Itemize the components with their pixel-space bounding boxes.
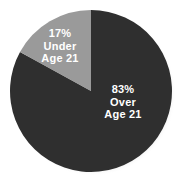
pie-chart-graphic (0, 0, 175, 178)
pie-chart: 17% Under Age 21 83% Over Age 21 (0, 0, 175, 178)
